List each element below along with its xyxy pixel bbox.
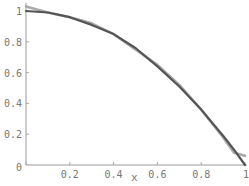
series-group <box>26 6 245 165</box>
series-line-approximation <box>26 6 245 155</box>
y-tick-label: 0.4 <box>4 98 22 109</box>
x-tick-label: 0.6 <box>148 169 166 180</box>
x-tick-label: 0.4 <box>105 169 123 180</box>
y-tick-label: 0.6 <box>4 68 22 79</box>
y-tick-label: 0.2 <box>4 129 22 140</box>
y-tick-label: 1 <box>16 6 22 17</box>
line-chart: 00.20.40.60.81 0.20.40.60.81 x <box>0 0 249 186</box>
x-tick-label: 0.2 <box>61 169 79 180</box>
x-tick-label: 1 <box>243 169 249 180</box>
x-tick-label: 0 <box>16 162 22 173</box>
axes: 00.20.40.60.81 0.20.40.60.81 <box>4 3 249 180</box>
series-line-exact <box>26 11 245 165</box>
y-ticks: 0.20.40.60.81 <box>4 6 29 140</box>
x-tick-label: 0.8 <box>192 169 210 180</box>
y-tick-label: 0.8 <box>4 37 22 48</box>
x-axis-label: x <box>131 171 138 184</box>
